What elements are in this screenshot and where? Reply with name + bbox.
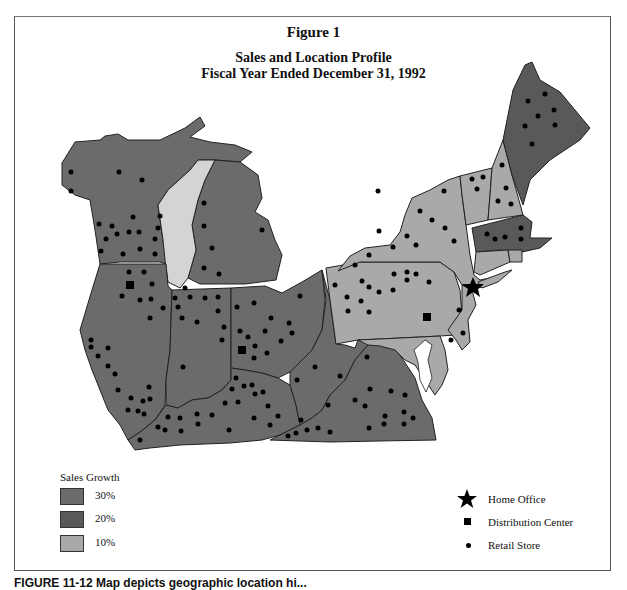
- legend-retail-store: Retail Store: [488, 539, 540, 551]
- legend-growth-title: Sales Growth: [60, 471, 120, 483]
- region-maine: [503, 62, 590, 205]
- legend-label-20: 20%: [95, 512, 115, 524]
- dot-icon: [466, 543, 471, 548]
- legend-home-office: Home Office: [488, 493, 546, 505]
- legend-swatch-30: [60, 488, 84, 505]
- region-rhode-island: [508, 250, 522, 262]
- star-icon: [456, 488, 478, 510]
- square-icon: [464, 518, 471, 525]
- figure-caption: FIGURE 11-12 Map depicts geographic loca…: [14, 576, 307, 590]
- legend-swatch-10: [60, 535, 84, 552]
- region-vermont: [460, 168, 492, 225]
- legend-label-30: 30%: [95, 489, 115, 501]
- region-connecticut: [474, 250, 510, 275]
- legend-swatch-20: [60, 511, 84, 528]
- legend-label-10: 10%: [95, 536, 115, 548]
- region-illinois: [80, 264, 172, 440]
- legend-distribution-center: Distribution Center: [488, 516, 573, 528]
